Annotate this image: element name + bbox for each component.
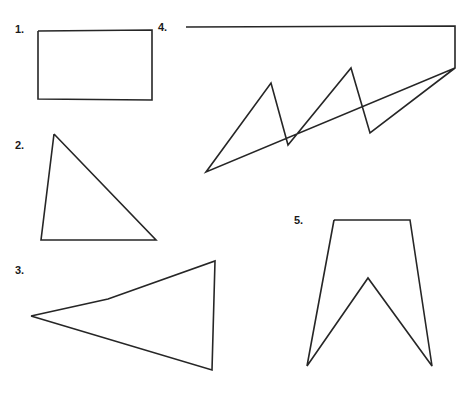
figure-label-4: 4. xyxy=(158,22,167,33)
shape-zigzag-polygon[interactable] xyxy=(186,26,455,172)
worksheet-canvas: 1. 2. 3. 4. 5. xyxy=(0,0,467,399)
figure-label-2: 2. xyxy=(15,140,24,151)
shape-right-triangle[interactable] xyxy=(41,134,156,240)
shapes-svg xyxy=(0,0,467,399)
figure-label-1: 1. xyxy=(15,24,24,35)
shape-rectangle[interactable] xyxy=(38,30,152,100)
shape-concave-arrowhead-quadrilateral[interactable] xyxy=(31,261,215,370)
figure-label-3: 3. xyxy=(15,265,24,276)
shape-banner-pennant-polygon[interactable] xyxy=(307,220,432,366)
figure-label-5: 5. xyxy=(294,215,303,226)
